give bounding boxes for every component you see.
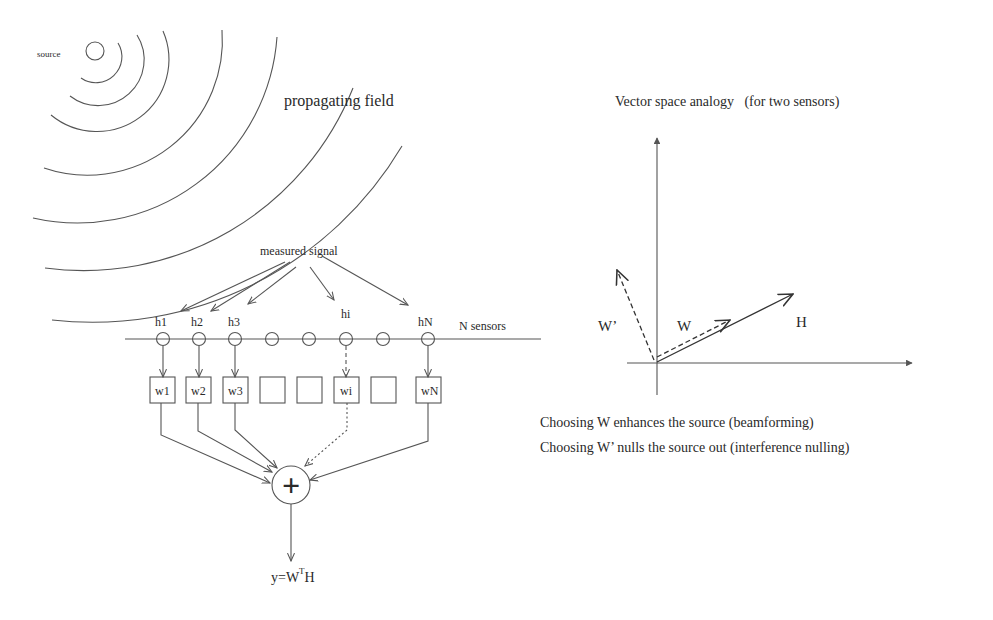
measured-signal-label: measured signal: [260, 244, 338, 258]
vector-h-label: H: [796, 314, 807, 330]
weight-label-w2: w2: [191, 384, 206, 398]
vector-w-prime: [617, 270, 654, 360]
n-sensors-label: N sensors: [459, 319, 506, 333]
vector-w-label: W: [677, 318, 692, 334]
sensor-label-hN: hN: [418, 315, 433, 329]
summer-plus-icon: +: [282, 467, 300, 503]
vector-space-title: Vector space analogy (for two sensors): [615, 94, 840, 110]
source-label: source: [37, 49, 61, 59]
sensor-label-h2: h2: [191, 315, 203, 329]
beamforming-diagram: source propagating field measured signal…: [0, 0, 993, 620]
caption-beamforming: Choosing W enhances the source (beamform…: [540, 415, 814, 431]
weight-label-wN: wN: [421, 384, 439, 398]
measured-signal-arrows: [181, 256, 408, 311]
sensor-label-hi: hi: [341, 307, 351, 321]
left-panel: source propagating field measured signal…: [33, 30, 541, 585]
wavefront-arcs: [33, 30, 402, 322]
weight-label-wi: wi: [340, 384, 353, 398]
weight-label-w1: w1: [155, 384, 170, 398]
source-circle: [86, 42, 104, 60]
vector-w: [657, 320, 730, 357]
output-equation: y=WTH: [271, 566, 315, 585]
sensor-to-weight-arrows: [163, 346, 428, 377]
vector-w-prime-label: W’: [598, 318, 617, 334]
caption-nulling: Choosing W’ nulls the source out (interf…: [540, 440, 850, 456]
propagating-field-label: propagating field: [284, 92, 394, 110]
sensor-label-h1: h1: [155, 315, 167, 329]
sensor-label-h3: h3: [228, 315, 240, 329]
weight-label-w3: w3: [228, 384, 243, 398]
right-panel: Vector space analogy (for two sensors) H…: [540, 94, 912, 456]
